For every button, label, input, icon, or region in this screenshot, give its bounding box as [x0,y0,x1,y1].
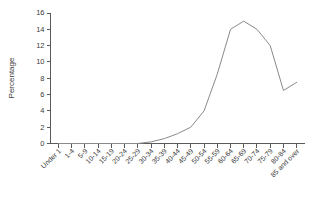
y-axis-tick-label: 16 [36,8,44,17]
y-axis-tick-label: 8 [40,74,44,83]
percentage-by-age-line-chart: 0246810121416 Under 11-45-910-1415-1920-… [0,0,314,203]
chart-background [0,0,314,203]
y-axis-title: Percentage [7,57,16,98]
y-axis-tick-label: 6 [40,90,44,99]
y-axis-tick-label: 10 [36,57,44,66]
chart-container: 0246810121416 Under 11-45-910-1415-1920-… [0,0,314,203]
y-axis-tick-label: 2 [40,123,44,132]
y-axis-tick-label: 12 [36,41,44,50]
y-axis-tick-label: 14 [36,25,44,34]
y-axis-tick-label: 0 [40,139,44,148]
y-axis-tick-label: 4 [40,106,44,115]
